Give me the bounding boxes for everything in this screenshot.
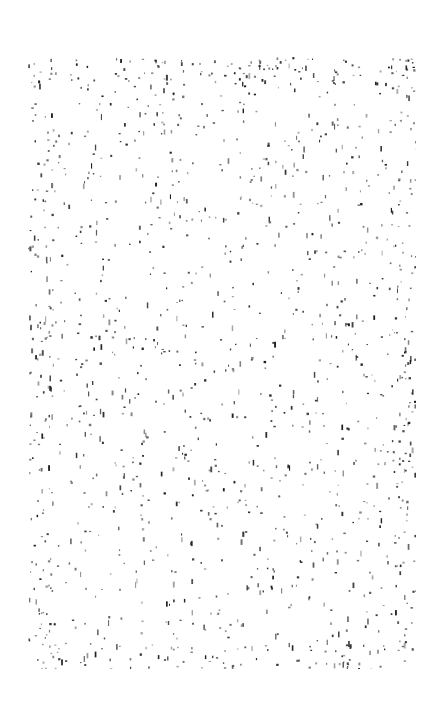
speckle-texture-region (28, 57, 416, 669)
speckle-noise-pattern (28, 57, 416, 669)
